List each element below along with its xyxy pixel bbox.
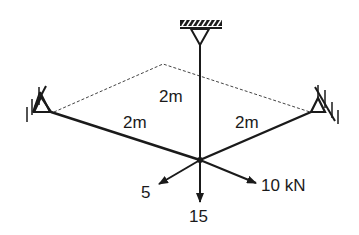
load-left-arrow — [159, 160, 200, 184]
load-down-label: 15 — [189, 208, 208, 225]
load-right-arrow — [200, 160, 256, 183]
right-member-length-label: 2m — [235, 114, 259, 131]
load-right-label: 10 kN — [261, 177, 305, 194]
right-support-icon — [311, 85, 338, 124]
left-support-icon — [27, 86, 51, 122]
top-support-icon — [180, 20, 222, 45]
truss-diagram — [0, 0, 359, 235]
load-left-label: 5 — [141, 184, 150, 201]
vertical-member-length-label: 2m — [159, 88, 183, 105]
left-member-length-label: 2m — [123, 114, 147, 131]
